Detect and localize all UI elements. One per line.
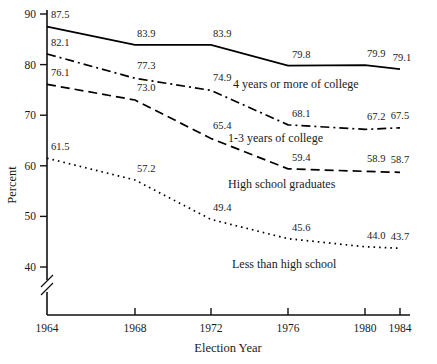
data-point-label: 67.2 xyxy=(367,111,385,122)
chart-container: 405060708090 196419681972197619801984 87… xyxy=(0,0,437,364)
data-point-label: 65.4 xyxy=(213,120,232,131)
data-point-label: 61.5 xyxy=(51,141,69,152)
y-tick-group: 405060708090 xyxy=(25,8,48,273)
point-label-group: 87.583.983.979.879.979.182.177.374.968.1… xyxy=(51,9,411,243)
data-point-label: 49.4 xyxy=(213,202,232,213)
data-point-label: 79.1 xyxy=(393,52,411,63)
y-tick-label: 90 xyxy=(25,8,37,20)
data-point-label: 68.1 xyxy=(292,108,310,119)
data-point-label: 83.9 xyxy=(213,28,231,39)
data-point-label: 76.1 xyxy=(51,67,69,78)
data-point-label: 77.3 xyxy=(137,60,155,71)
y-tick-label: 60 xyxy=(25,160,37,172)
x-tick-label: 1976 xyxy=(277,322,300,334)
y-tick-label: 80 xyxy=(25,59,37,71)
data-point-label: 45.6 xyxy=(292,222,310,233)
series-name-label: Less than high school xyxy=(232,257,337,271)
x-axis-title: Election Year xyxy=(194,341,262,355)
x-tick-label: 1968 xyxy=(124,322,147,334)
y-tick-label: 50 xyxy=(25,210,37,222)
line-chart: 405060708090 196419681972197619801984 87… xyxy=(0,0,437,364)
data-point-label: 58.9 xyxy=(367,153,385,164)
x-tick-label: 1984 xyxy=(389,322,412,334)
data-point-label: 59.4 xyxy=(292,152,311,163)
x-tick-label: 1980 xyxy=(354,322,377,334)
x-tick-label: 1964 xyxy=(36,322,59,334)
y-tick-label: 40 xyxy=(25,261,37,273)
data-point-label: 82.1 xyxy=(51,37,69,48)
axes-group xyxy=(41,10,410,315)
series-name-label: 1-3 years of college xyxy=(228,131,323,145)
x-tick-group: 196419681972197619801984 xyxy=(36,308,412,334)
y-axis-title: Percent xyxy=(5,166,19,204)
data-point-label: 67.5 xyxy=(391,110,409,121)
data-point-label: 43.7 xyxy=(391,231,409,242)
data-point-label: 83.9 xyxy=(137,28,155,39)
data-point-label: 74.9 xyxy=(213,72,231,83)
series-group xyxy=(47,27,400,249)
data-point-label: 57.2 xyxy=(137,163,155,174)
data-point-label: 79.9 xyxy=(367,48,385,59)
data-point-label: 79.8 xyxy=(292,49,310,60)
series-name-label: High school graduates xyxy=(228,177,336,191)
x-tick-label: 1972 xyxy=(200,322,223,334)
data-point-label: 58.7 xyxy=(391,154,409,165)
data-point-label: 87.5 xyxy=(51,9,69,20)
data-point-label: 73.0 xyxy=(137,82,155,93)
data-point-label: 44.0 xyxy=(367,230,385,241)
y-tick-label: 70 xyxy=(25,109,37,121)
series-label-group: 4 years or more of college1-3 years of c… xyxy=(228,77,359,271)
series-name-label: 4 years or more of college xyxy=(233,77,359,91)
